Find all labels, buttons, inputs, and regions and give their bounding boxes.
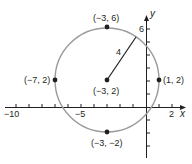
y-axis [144,15,150,158]
point-center [105,78,110,83]
x-axis-label: x [179,108,186,119]
point-label-top: (−3, 6) [93,13,119,23]
radius-line [107,37,136,80]
point-label-right: (1, 2) [163,75,184,85]
point-label-center: (−3, 2) [93,86,119,96]
x-axis [5,104,186,110]
y-tick-label-6: 6 [139,24,144,34]
point-label-left: (−7, 2) [24,75,50,85]
circle-diagram: 4 (−3, 6) (−7, 2) (1, 2) (−3, 2) (−3, −2… [0,0,192,164]
radius-label: 4 [116,47,121,57]
x-tick-label-2: 2 [169,109,174,119]
point-bottom [105,130,110,135]
point-right [157,78,162,83]
point-label-bottom: (−3, −2) [91,138,123,148]
y-axis-label: y [149,8,156,19]
x-tick-label-neg10: −10 [4,109,19,119]
point-top [105,25,110,30]
x-tick-label-neg5: −5 [75,109,85,119]
point-left [53,78,58,83]
